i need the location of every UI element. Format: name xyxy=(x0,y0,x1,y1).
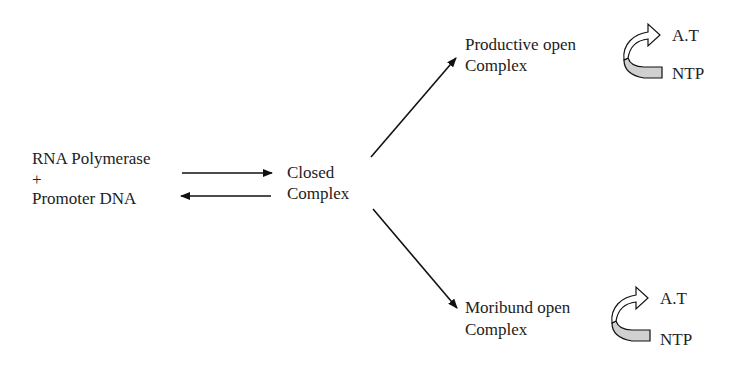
closed-line2: Complex xyxy=(287,184,349,204)
start-plus: + xyxy=(32,170,42,190)
cycle-arrow-icon-productive xyxy=(624,24,662,78)
cycle-arrow-icon-moribund xyxy=(612,287,650,341)
productive-line1: Productive open xyxy=(465,35,576,55)
arrow-to-moribund xyxy=(373,209,457,308)
productive-line2: Complex xyxy=(465,56,527,76)
closed-line1: Closed xyxy=(287,163,334,183)
moribund-line1: Moribund open xyxy=(465,298,570,318)
start-line1: RNA Polymerase xyxy=(32,149,151,169)
start-line3: Promoter DNA xyxy=(32,189,136,209)
productive-in-label: NTP xyxy=(672,64,704,84)
diagram-canvas: RNA Polymerase + Promoter DNA Closed Com… xyxy=(0,0,737,368)
arrows-layer xyxy=(0,0,737,368)
moribund-out-label: A.T xyxy=(660,289,687,309)
moribund-line2: Complex xyxy=(465,320,527,340)
arrow-to-productive xyxy=(371,58,456,157)
productive-out-label: A.T xyxy=(672,26,699,46)
moribund-in-label: NTP xyxy=(660,330,692,350)
